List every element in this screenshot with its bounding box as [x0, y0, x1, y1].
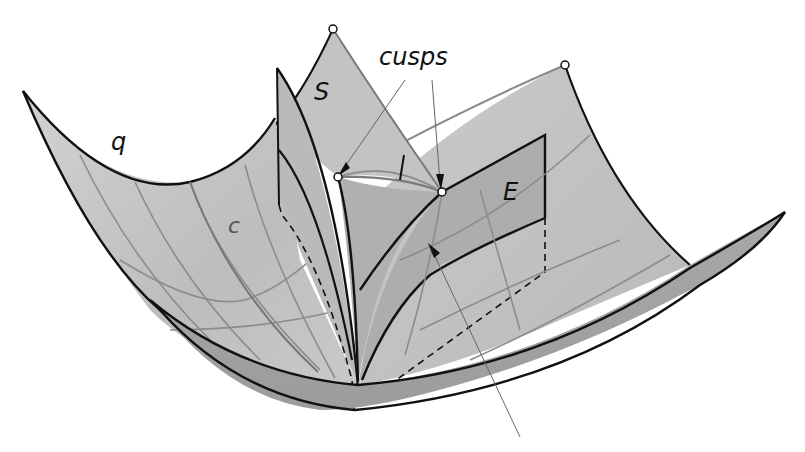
- label-s: S: [314, 78, 329, 106]
- surface-diagram: q c S E cusps: [0, 0, 805, 452]
- s-apex-point: [329, 25, 337, 33]
- cusp-right-point: [438, 188, 446, 196]
- label-c: c: [228, 213, 240, 238]
- cusp-left-point: [334, 173, 342, 181]
- label-cusps: cusps: [379, 43, 448, 71]
- label-e: E: [503, 178, 518, 206]
- e-apex-point: [561, 61, 569, 69]
- label-q: q: [111, 128, 126, 156]
